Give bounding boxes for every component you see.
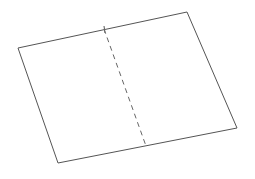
figure-canvas <box>0 0 255 179</box>
folded-sheet-figure <box>0 0 255 179</box>
